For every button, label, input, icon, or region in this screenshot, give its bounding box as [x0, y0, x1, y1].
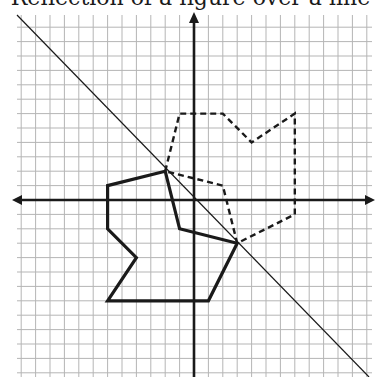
- reflected-figure-dashed: [165, 114, 295, 244]
- coordinate-plane: [0, 0, 381, 377]
- original-figure-solid: [108, 171, 238, 301]
- axes: [12, 12, 375, 377]
